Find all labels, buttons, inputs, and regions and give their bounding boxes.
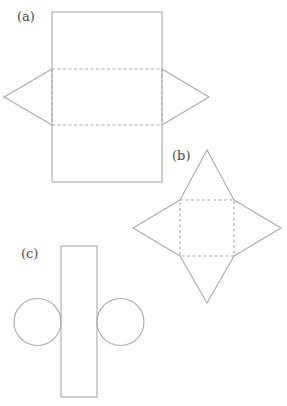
cylinder-rectangle <box>61 246 97 397</box>
cylinder-right-circle <box>97 299 144 346</box>
prism-right-triangle <box>162 69 209 125</box>
pyramid-square-base <box>180 200 234 256</box>
figure-a-label: (a) <box>17 9 35 24</box>
figure-c-cylinder-net: (c) <box>14 246 144 397</box>
pyramid-left-triangle <box>133 200 180 256</box>
cylinder-left-circle <box>14 299 61 346</box>
nets-diagram: (a) (b) (c) <box>0 0 287 406</box>
prism-rectangle-outline <box>52 12 162 182</box>
figure-c-label: (c) <box>21 246 38 261</box>
figure-b-label: (b) <box>172 148 190 163</box>
prism-left-triangle <box>4 69 52 125</box>
pyramid-right-triangle <box>234 200 281 256</box>
figure-b-pyramid-net: (b) <box>133 148 281 303</box>
pyramid-bottom-triangle <box>180 256 234 303</box>
